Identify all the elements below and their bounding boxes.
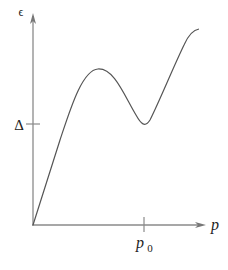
dispersion-curve xyxy=(33,29,199,225)
y-axis xyxy=(30,13,36,226)
delta-label: Δ xyxy=(14,117,24,133)
diagram-canvas: ϵ Δ p p 0 xyxy=(0,0,228,270)
x-axis-label: p xyxy=(210,216,219,234)
x-axis xyxy=(32,222,206,228)
y-axis-label: ϵ xyxy=(19,5,24,19)
dispersion-diagram: ϵ Δ p p 0 xyxy=(0,0,228,270)
p0-label: p xyxy=(135,234,144,252)
p0-subscript: 0 xyxy=(147,242,153,254)
